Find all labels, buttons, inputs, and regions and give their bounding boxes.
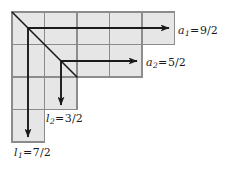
label-arm-1-value: 9/2: [200, 24, 218, 37]
label-leg-1-value: 7/2: [33, 146, 51, 159]
label-arm-2-equals: =: [158, 56, 168, 69]
label-arm-2-variable: a: [146, 56, 153, 69]
label-leg-1: l1=7/2: [14, 146, 51, 159]
label-arm-1-subscript: 1: [185, 29, 190, 38]
label-leg-2-subscript: 2: [50, 117, 55, 126]
label-leg-2: l2=3/2: [46, 112, 83, 125]
label-leg-1-equals: =: [23, 146, 33, 159]
label-arm-1: a1=9/2: [178, 24, 218, 37]
label-arm-1-variable: a: [178, 24, 185, 37]
label-arm-1-equals: =: [190, 24, 200, 37]
label-leg-2-value: 3/2: [65, 112, 83, 125]
label-arm-2-subscript: 2: [153, 61, 158, 70]
label-arm-2: a2=5/2: [146, 56, 186, 69]
label-leg-1-subscript: 1: [18, 151, 23, 160]
label-arm-2-value: 5/2: [168, 56, 186, 69]
label-leg-2-equals: =: [55, 112, 65, 125]
young-diagram-figure: a1=9/2 a2=5/2 l2=3/2 l1=7/2: [0, 0, 230, 169]
